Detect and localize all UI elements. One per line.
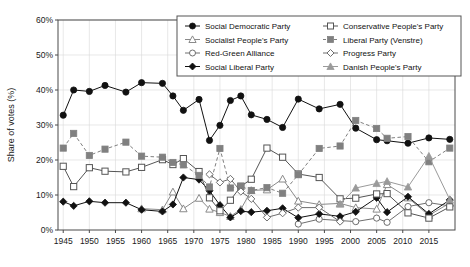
legend-label: Red-Green Alliance xyxy=(205,49,275,58)
data-point xyxy=(227,185,233,191)
x-tick-label: 2005 xyxy=(367,236,386,246)
data-point xyxy=(60,112,66,118)
data-point xyxy=(71,130,77,136)
data-point xyxy=(295,204,302,211)
data-point xyxy=(295,197,302,204)
x-tick-label: 1990 xyxy=(289,236,308,246)
data-point xyxy=(425,152,432,159)
data-point xyxy=(180,174,187,181)
data-point xyxy=(206,195,212,201)
series-social-democratic-party xyxy=(60,80,453,147)
data-point xyxy=(426,135,432,141)
data-point xyxy=(71,184,77,190)
data-point xyxy=(264,185,270,191)
data-point xyxy=(86,198,93,205)
x-tick-label: 2010 xyxy=(393,236,412,246)
data-point xyxy=(206,184,212,190)
y-axis-ticks: 0%10%20%30%40%50%60% xyxy=(36,15,58,235)
data-point xyxy=(180,156,186,162)
data-point xyxy=(374,125,380,131)
y-tick-label: 20% xyxy=(36,155,53,165)
x-tick-label: 1970 xyxy=(184,236,203,246)
legend-marker-sample xyxy=(328,37,334,43)
data-point xyxy=(405,140,411,146)
data-point xyxy=(353,219,359,225)
legend-label: Social Liberal Party xyxy=(205,63,274,72)
data-point xyxy=(447,145,453,151)
data-point xyxy=(159,154,165,160)
x-tick-label: 2000 xyxy=(341,236,360,246)
data-point xyxy=(405,210,411,216)
data-point xyxy=(206,137,212,143)
legend-label: Conservative People's Party xyxy=(343,22,443,31)
data-point xyxy=(295,214,302,221)
data-point xyxy=(102,168,108,174)
x-tick-label: 1975 xyxy=(210,236,229,246)
y-tick-label: 0% xyxy=(41,225,54,235)
legend-label: Liberal Party (Venstre) xyxy=(343,36,423,45)
data-point xyxy=(60,198,67,205)
data-point xyxy=(337,143,343,149)
data-point xyxy=(316,145,322,151)
data-point xyxy=(264,116,270,122)
data-point xyxy=(353,195,359,201)
data-point xyxy=(426,200,432,206)
data-point xyxy=(122,199,129,206)
data-point xyxy=(217,145,223,151)
data-point xyxy=(384,219,390,225)
data-point xyxy=(227,97,233,103)
data-point xyxy=(196,172,202,178)
data-point xyxy=(316,106,322,112)
data-point xyxy=(227,197,233,203)
data-point xyxy=(426,215,432,221)
data-point xyxy=(123,139,129,145)
data-point xyxy=(170,159,176,165)
data-point xyxy=(280,154,286,160)
data-point xyxy=(217,122,223,128)
series-line xyxy=(63,83,450,144)
data-point xyxy=(280,124,286,130)
data-point xyxy=(159,80,165,86)
data-point xyxy=(86,152,92,158)
data-point xyxy=(238,93,244,99)
data-point xyxy=(248,187,254,193)
x-tick-label: 1960 xyxy=(132,236,151,246)
data-point xyxy=(405,133,411,139)
y-tick-label: 50% xyxy=(36,50,53,60)
data-point xyxy=(383,178,390,185)
data-point xyxy=(123,89,129,95)
data-point xyxy=(383,209,390,216)
x-tick-label: 1995 xyxy=(315,236,334,246)
data-point xyxy=(180,205,187,212)
data-point xyxy=(123,169,129,175)
data-point xyxy=(374,137,380,143)
data-series xyxy=(60,80,454,228)
data-point xyxy=(217,208,223,214)
data-point xyxy=(280,190,286,196)
data-point xyxy=(248,176,254,182)
data-point xyxy=(138,80,144,86)
data-point xyxy=(248,209,255,216)
data-point xyxy=(337,101,343,107)
x-tick-label: 1985 xyxy=(263,236,282,246)
x-tick-label: 2015 xyxy=(419,236,438,246)
y-axis-label: Share of votes (%) xyxy=(6,88,16,163)
x-tick-label: 1945 xyxy=(54,236,73,246)
data-point xyxy=(138,153,144,159)
series-social-liberal-party xyxy=(60,174,454,221)
data-point xyxy=(170,93,176,99)
data-point xyxy=(102,82,108,88)
y-tick-label: 60% xyxy=(36,15,53,25)
x-axis-ticks: 1945195019551960196519701975198019851990… xyxy=(54,230,439,246)
election-vote-share-chart: 0%10%20%30%40%50%60% 1945195019551960196… xyxy=(0,0,470,267)
legend-label: Socialist People's Party xyxy=(205,36,288,45)
series-progress-party xyxy=(206,171,344,225)
x-tick-label: 1965 xyxy=(158,236,177,246)
data-point xyxy=(374,215,380,221)
data-point xyxy=(248,112,254,118)
series-liberal-party-venstre xyxy=(60,117,453,196)
data-point xyxy=(169,201,176,208)
data-point xyxy=(60,145,66,151)
data-point xyxy=(60,163,66,169)
data-point xyxy=(295,172,301,178)
